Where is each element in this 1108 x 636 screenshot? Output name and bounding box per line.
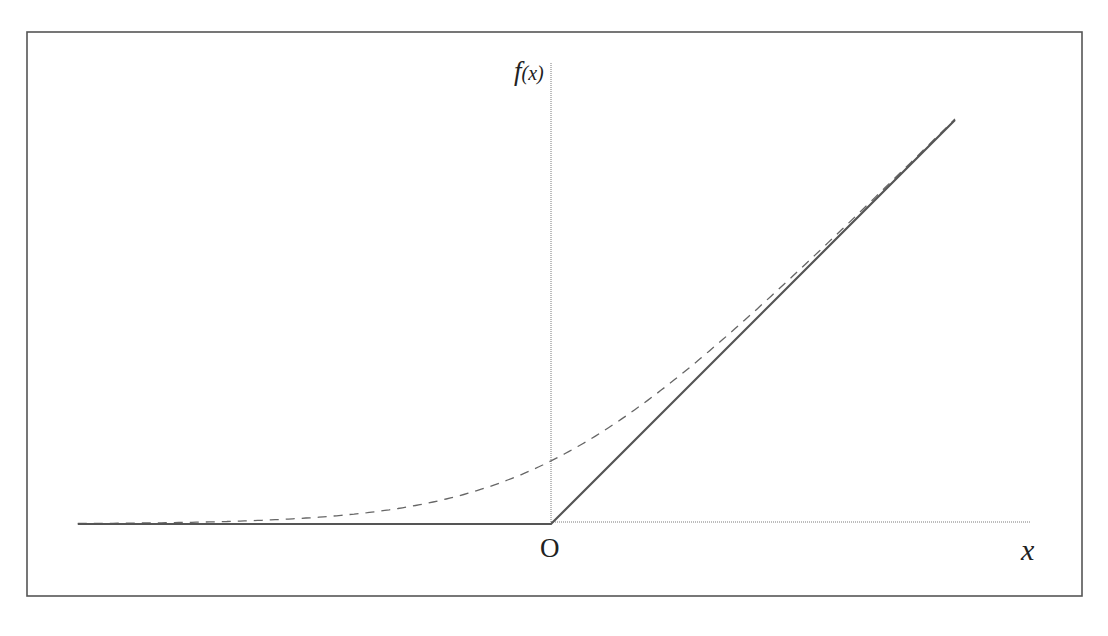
origin-label: O [540, 533, 560, 563]
y-axis-label-arg: (x) [522, 62, 545, 85]
relu-curve [78, 120, 955, 524]
softplus-curve [78, 119, 955, 524]
activation-function-plot: f(x) O x [0, 0, 1108, 636]
x-axis-label: x [1020, 533, 1035, 566]
y-axis-label: f(x) [514, 56, 544, 86]
plot-frame [27, 32, 1082, 596]
